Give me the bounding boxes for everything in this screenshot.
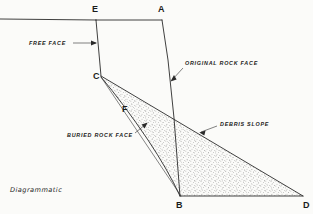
vertex-label-C: C	[93, 71, 100, 81]
annotation-buried-rock-face: BURIED ROCK FACE	[67, 123, 148, 138]
annotation-label-buried-rock-face: BURIED ROCK FACE	[67, 132, 133, 138]
annotation-label-original-rock-face: ORIGINAL ROCK FACE	[185, 60, 258, 66]
cross-section-figure: E A C F B D FREE FACE ORIGINAL ROCK FACE…	[0, 0, 313, 214]
vertex-label-E: E	[92, 4, 98, 14]
annotation-label-free-face: FREE FACE	[29, 40, 66, 46]
annotation-free-face: FREE FACE	[29, 40, 97, 46]
arrowhead-free-face	[91, 40, 97, 45]
vertex-label-F: F	[122, 104, 128, 114]
annotation-original-rock-face: ORIGINAL ROCK FACE	[171, 60, 259, 82]
diagram-canvas: E A C F B D FREE FACE ORIGINAL ROCK FACE…	[0, 0, 313, 214]
figure-caption: Diagrammatic	[10, 186, 62, 194]
annotation-debris-slope: DEBRIS SLOPE	[199, 121, 269, 136]
ground-surface-line	[0, 19, 96, 20]
vertex-label-A: A	[158, 4, 165, 14]
vertex-label-D: D	[303, 200, 310, 210]
leader-line-debris-slope	[201, 126, 217, 132]
free-face-line-EC	[96, 20, 101, 76]
annotation-label-debris-slope: DEBRIS SLOPE	[220, 121, 269, 127]
vertex-label-B: B	[176, 200, 183, 210]
